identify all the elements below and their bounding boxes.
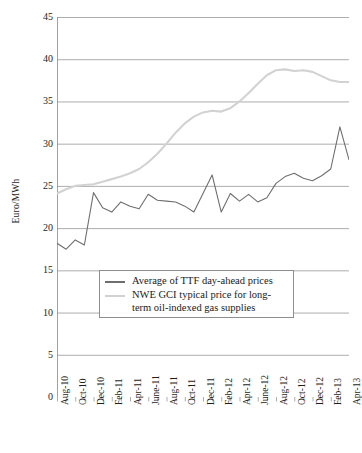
x-tick-label: Oct-11 xyxy=(188,379,198,405)
x-tick-label: Oct-10 xyxy=(79,379,89,405)
x-tick-label: Feb-11 xyxy=(115,378,125,405)
series-line-gci xyxy=(57,69,349,193)
x-tick-label: Apr-12 xyxy=(243,378,253,405)
x-tick-label: Oct-12 xyxy=(298,379,308,405)
legend-label-ttf: Average of TTF day-ahead prices xyxy=(132,275,273,288)
x-axis-tick-labels: Aug-10Oct-10Dec-10Feb-11Apr-11June-11Aug… xyxy=(57,400,349,453)
legend-label-gci-line2: term oil-indexed gas supplies xyxy=(132,302,255,315)
legend-swatch-spacer xyxy=(105,308,125,310)
legend: Average of TTF day-ahead prices NWE GCI … xyxy=(99,270,294,318)
plot-svg xyxy=(57,17,349,397)
legend-item-ttf: Average of TTF day-ahead prices xyxy=(105,275,287,288)
y-tick-label: 30 xyxy=(29,139,53,149)
y-axis-title: Euro/MWh xyxy=(11,161,21,241)
legend-label-gci-line1: NWE GCI typical price for long- xyxy=(132,289,271,302)
y-tick-label: 0 xyxy=(29,392,53,402)
legend-item-gci: NWE GCI typical price for long- xyxy=(105,289,287,302)
y-tick-label: 40 xyxy=(29,54,53,64)
y-tick-label: 5 xyxy=(29,350,53,360)
y-tick-label: 35 xyxy=(29,96,53,106)
legend-swatch-ttf xyxy=(105,281,125,283)
x-tick-label: Aug-11 xyxy=(170,376,180,405)
x-tick-label: Aug-12 xyxy=(280,376,290,405)
legend-swatch-gci xyxy=(105,295,125,297)
x-tick-label: June-12 xyxy=(261,375,271,405)
y-tick-label: 45 xyxy=(29,12,53,22)
x-tick-label: June-11 xyxy=(152,375,162,405)
x-tick-label: Feb-12 xyxy=(225,378,235,405)
x-tick-label: Aug-10 xyxy=(61,376,71,405)
series-line-ttf xyxy=(57,127,349,249)
x-tick-label: Dec-10 xyxy=(97,377,107,405)
y-tick-label: 25 xyxy=(29,181,53,191)
x-tick-label: Apr-13 xyxy=(353,378,362,405)
x-tick-label: Dec-11 xyxy=(207,377,217,405)
plot-area xyxy=(57,17,349,397)
x-tick-label: Feb-13 xyxy=(334,378,344,405)
x-tick-label: Apr-11 xyxy=(134,378,144,405)
x-tick-label: Dec-12 xyxy=(316,377,326,405)
y-tick-label: 15 xyxy=(29,265,53,275)
legend-item-gci-cont: term oil-indexed gas supplies xyxy=(105,302,287,315)
y-axis-tick-labels: 051015202530354045 xyxy=(28,17,53,397)
y-tick-label: 20 xyxy=(29,223,53,233)
y-tick-label: 10 xyxy=(29,308,53,318)
